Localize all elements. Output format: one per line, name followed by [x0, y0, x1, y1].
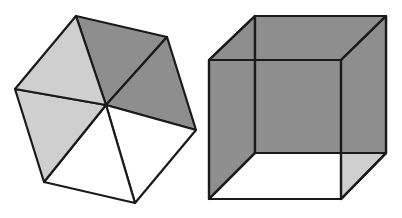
cube-figure: [209, 16, 386, 199]
hexagon-figure: [15, 16, 196, 203]
figure-canvas: [0, 0, 402, 218]
